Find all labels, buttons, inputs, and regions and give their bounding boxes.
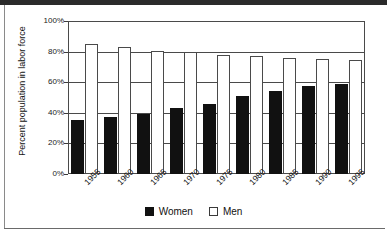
legend-label: Men xyxy=(223,206,242,217)
bar-men-1995 xyxy=(349,60,362,174)
y-axis-tick xyxy=(64,174,68,175)
legend-label: Women xyxy=(159,206,193,217)
bar-group xyxy=(167,21,200,174)
bar-group xyxy=(233,21,266,174)
y-axis-labels: 0%20%40%60%80%100% xyxy=(24,0,64,236)
bar-women-1975 xyxy=(203,104,216,174)
bar-group xyxy=(68,21,101,174)
y-axis-tick-label: 80% xyxy=(28,48,64,56)
bar-women-1960 xyxy=(104,117,117,174)
y-axis-tick xyxy=(64,143,68,144)
outlined-square-icon xyxy=(209,207,218,216)
bar-men-1980 xyxy=(250,56,263,174)
legend-item-women: Women xyxy=(145,206,193,217)
chart-legend: WomenMen xyxy=(0,206,387,217)
y-axis-tick xyxy=(64,82,68,83)
y-axis-tick xyxy=(64,21,68,22)
bar-men-1985 xyxy=(283,58,296,174)
y-axis-tick-label: 0% xyxy=(28,170,64,178)
y-axis-tick-label: 20% xyxy=(28,139,64,147)
page-rule-left xyxy=(4,5,5,228)
y-axis-tick-label: 40% xyxy=(28,109,64,117)
chart-figure: Percent population in labor force 0%20%4… xyxy=(0,0,387,236)
bar-group xyxy=(299,21,332,174)
y-axis-tick xyxy=(64,113,68,114)
bar-men-1975 xyxy=(217,55,230,174)
bar-group xyxy=(134,21,167,174)
bar-women-1980 xyxy=(236,96,249,174)
y-axis-tick-label: 100% xyxy=(28,17,64,25)
bar-group xyxy=(266,21,299,174)
bar-group xyxy=(101,21,134,174)
bar-men-1970 xyxy=(184,52,197,174)
y-axis-tick xyxy=(64,52,68,53)
bar-women-1955 xyxy=(71,120,84,174)
bar-women-1990 xyxy=(302,86,315,174)
y-axis-tick-label: 60% xyxy=(28,78,64,86)
bar-men-1965 xyxy=(151,51,164,174)
legend-item-men: Men xyxy=(209,206,242,217)
filled-square-icon xyxy=(145,207,154,216)
bar-men-1990 xyxy=(316,59,329,175)
bar-men-1955 xyxy=(85,44,98,174)
bar-women-1985 xyxy=(269,91,282,174)
bar-women-1965 xyxy=(137,114,150,174)
bar-group xyxy=(332,21,365,174)
bar-men-1960 xyxy=(118,47,131,174)
bar-group xyxy=(200,21,233,174)
bar-women-1995 xyxy=(335,84,348,174)
bars-layer xyxy=(68,21,365,174)
bar-women-1970 xyxy=(170,108,183,174)
